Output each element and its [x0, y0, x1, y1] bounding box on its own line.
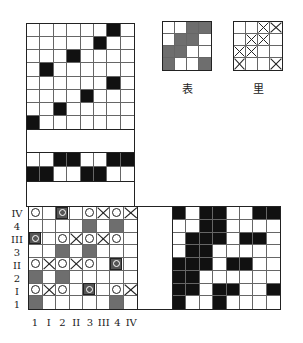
treadling-cell — [29, 258, 43, 271]
treadling-cell — [56, 220, 70, 233]
cross-icon — [43, 284, 56, 296]
treadling-cell — [56, 271, 70, 284]
cross-icon — [258, 34, 269, 45]
drawdown-cell — [173, 284, 186, 297]
treadling-cell — [56, 245, 70, 258]
back-cell — [270, 46, 282, 58]
boxed-circle-icon — [56, 207, 68, 219]
treadling-cell — [110, 258, 124, 271]
threading-cell — [94, 77, 107, 90]
col-label: 3 — [83, 317, 97, 329]
treadling-cell — [110, 207, 124, 220]
threading-cell — [121, 50, 134, 63]
threading-cell — [94, 50, 107, 63]
drawdown-cell — [240, 296, 253, 309]
drawdown-cell — [227, 233, 240, 246]
drawdown-cell — [253, 220, 266, 233]
col-label: 4 — [111, 317, 125, 329]
col-label: IV — [124, 317, 138, 329]
treadling-cell — [124, 258, 138, 271]
circle-icon — [85, 259, 94, 268]
face-cell — [199, 34, 211, 46]
drawdown-cell — [200, 220, 213, 233]
treadling-cell — [124, 296, 138, 309]
face-cell — [187, 22, 199, 34]
cross-icon — [43, 258, 56, 270]
threading-cell — [121, 24, 134, 37]
drawdown-cell — [200, 207, 213, 220]
face-cell — [163, 34, 175, 46]
col-label: I — [42, 317, 56, 329]
threading-cell — [67, 24, 80, 37]
face-cell — [175, 46, 187, 58]
circle-icon — [58, 234, 67, 243]
treadling-cell — [56, 258, 70, 271]
circle-icon — [31, 285, 40, 294]
row-label: 1 — [10, 299, 24, 311]
drawdown-cell — [253, 233, 266, 246]
band-cell — [121, 153, 134, 167]
treadling-cell — [97, 296, 111, 309]
drawdown-cell — [186, 233, 199, 246]
band-cell — [40, 167, 53, 181]
circle-icon — [31, 208, 40, 217]
treadling-grid — [28, 206, 138, 310]
cross-icon — [234, 46, 245, 57]
drawdown-cell — [200, 233, 213, 246]
drawdown-cell — [213, 258, 226, 271]
drawdown-cell — [213, 207, 226, 220]
treadling-cell — [29, 284, 43, 297]
band-cell — [94, 153, 107, 167]
drawdown-cell — [267, 233, 280, 246]
threading-cell — [54, 24, 67, 37]
treadling-cell — [29, 296, 43, 309]
circle-icon — [58, 259, 67, 268]
drawdown-cell — [240, 258, 253, 271]
cross-icon — [270, 58, 282, 70]
boxed-circle-icon — [29, 232, 41, 244]
threading-cell — [94, 116, 107, 129]
row-label: II — [10, 260, 24, 272]
treadling-cell — [43, 271, 57, 284]
drawdown-cell — [186, 245, 199, 258]
circle-icon — [112, 208, 121, 217]
back-cell — [270, 58, 282, 70]
drawdown-cell — [240, 233, 253, 246]
drawdown-cell — [213, 296, 226, 309]
col-label: 2 — [56, 317, 70, 329]
drawdown-cell — [186, 220, 199, 233]
treadling-cell — [56, 207, 70, 220]
circle-icon — [85, 234, 94, 243]
drawdown-cell — [227, 258, 240, 271]
threading-cell — [121, 77, 134, 90]
face-cell — [199, 22, 211, 34]
band-cell — [67, 153, 80, 167]
threading-cell — [107, 50, 120, 63]
back-cell — [234, 22, 246, 34]
drawdown-cell — [253, 245, 266, 258]
cross-icon — [124, 207, 138, 219]
treadling-cell — [124, 245, 138, 258]
back-cell — [270, 22, 282, 34]
treadling-cell — [97, 258, 111, 271]
treadling-cell — [70, 220, 84, 233]
circle-icon — [112, 285, 121, 294]
drawdown-cell — [213, 271, 226, 284]
threading-cell — [107, 24, 120, 37]
band-cell — [81, 167, 94, 181]
threading-cell — [94, 103, 107, 116]
treadling-cell — [43, 245, 57, 258]
face-cell — [199, 46, 211, 58]
drawdown-cell — [240, 220, 253, 233]
treadling-cell — [70, 284, 84, 297]
treadling-cell — [124, 284, 138, 297]
treadling-cell — [29, 245, 43, 258]
row-label: III — [10, 234, 24, 246]
drawdown-cell — [173, 220, 186, 233]
back-cell — [246, 22, 258, 34]
tieup-band — [26, 152, 135, 182]
threading-cell — [121, 103, 134, 116]
treadling-cell — [43, 207, 57, 220]
band-cell — [40, 153, 53, 167]
drawdown-cell — [267, 284, 280, 297]
